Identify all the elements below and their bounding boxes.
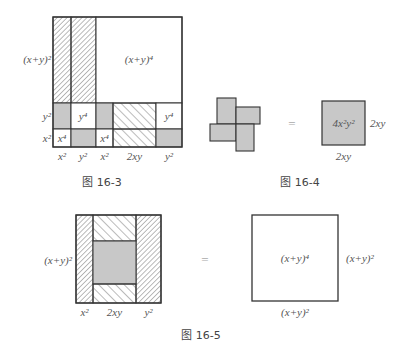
col-label: x²	[79, 306, 89, 318]
cell-gray	[53, 103, 71, 129]
figure-16-5: (x+y)² x² 2xy y² = (x+y)⁴ (x+y)² (x+y)² …	[44, 215, 374, 342]
equals-sign: =	[288, 116, 295, 131]
figure-16-4: = 4x²y² 2xy 2xy 图 16-4	[210, 98, 385, 189]
cell-y4-label: y⁴	[78, 110, 88, 122]
cell-x4-label: x⁴	[57, 132, 67, 144]
cell-hatched	[113, 103, 156, 129]
strip-y2	[136, 215, 161, 303]
side-label-bottom: 2xy	[336, 150, 351, 162]
pinwheel-piece	[236, 124, 254, 151]
cell-gray	[96, 103, 113, 129]
cell-x4-label: x⁴	[99, 132, 109, 144]
right-side-label: (x+y)²	[346, 252, 375, 265]
caption-16-3: 图 16-3	[82, 176, 121, 189]
big-square-label: (x+y)⁴	[125, 53, 154, 66]
cell-y4-label: y⁴	[164, 110, 174, 122]
figures-canvas: (x+y)⁴ y⁴ y⁴ x⁴ x⁴ (x+y)² y² x² x² y² x²…	[0, 0, 404, 348]
hatched-xy-top	[93, 215, 136, 241]
col-label: x²	[57, 150, 67, 162]
cell-gray	[156, 129, 182, 147]
strip-x2	[76, 215, 93, 303]
caption-16-4: 图 16-4	[280, 176, 319, 189]
tall-strip-x2	[53, 17, 71, 103]
pinwheel-piece	[210, 124, 236, 141]
col-label: y²	[164, 150, 174, 162]
pinwheel-piece	[236, 107, 260, 124]
col-label: 2xy	[127, 150, 142, 162]
col-label: y²	[78, 150, 88, 162]
hatched-xy-bottom	[93, 284, 136, 303]
pinwheel	[210, 98, 260, 151]
tall-strip-y2	[71, 17, 96, 103]
figure-16-3: (x+y)⁴ y⁴ y⁴ x⁴ x⁴ (x+y)² y² x² x² y² x²…	[23, 17, 182, 189]
left-label: (x+y)²	[23, 53, 52, 66]
right-square-label: (x+y)⁴	[281, 252, 310, 265]
bottom-side-label: (x+y)²	[281, 306, 310, 319]
gray-center	[93, 241, 136, 284]
equals-sign: =	[201, 252, 208, 267]
pinwheel-piece	[217, 98, 236, 124]
cell-hatched	[113, 129, 156, 147]
row-label-x2: x²	[42, 132, 52, 144]
side-label-right: 2xy	[370, 117, 385, 129]
left-label: (x+y)²	[44, 254, 73, 267]
row-label-y2: y²	[42, 110, 52, 122]
caption-16-5: 图 16-5	[181, 329, 220, 342]
cell-gray	[71, 129, 96, 147]
col-label: 2xy	[107, 306, 122, 318]
col-label: x²	[99, 150, 109, 162]
square-label: 4x²y²	[333, 117, 356, 129]
col-label: y²	[143, 306, 153, 318]
